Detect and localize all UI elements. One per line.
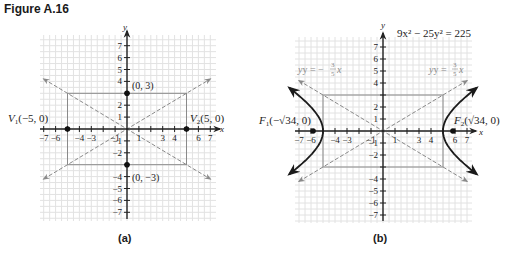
point-label-0-3: (0, 3)	[132, 80, 154, 92]
y-tick-label: 4	[118, 76, 123, 86]
y-tick-label: −4	[368, 174, 378, 184]
figure-canvas: −7−6−4−3−113467765421−1−2−4−5−6−7 −7−6−4…	[0, 0, 526, 256]
y-tick-label: 5	[374, 66, 379, 76]
x-tick-label: 7	[465, 135, 470, 145]
y-tick-label: −5	[368, 186, 378, 196]
x-tick-label: 3	[417, 135, 422, 145]
x-tick-label: −3	[87, 133, 97, 143]
y-tick-label: 1	[374, 114, 379, 124]
x-tick-label: −4	[330, 135, 340, 145]
svg-text:3: 3	[331, 61, 335, 69]
y-tick-label: 4	[374, 78, 379, 88]
data-point	[184, 126, 190, 132]
vertex-label-v2: V2(5, 0)	[190, 112, 224, 126]
y-tick-label: 7	[374, 42, 379, 52]
y-tick-label: −4	[112, 172, 122, 182]
y-tick-label: −6	[368, 198, 378, 208]
x-tick-label: −4	[75, 133, 85, 143]
svg-text:yy =: yy =	[428, 64, 447, 75]
data-point	[310, 128, 316, 134]
x-axis-label-a: x	[219, 124, 224, 134]
y-tick-label: −7	[368, 210, 378, 220]
y-axis-label-b: y	[380, 20, 385, 30]
y-tick-label: −2	[368, 150, 378, 160]
x-tick-label: 4	[172, 133, 177, 143]
asymptote-label-pos: yy = 3 5 x	[428, 61, 464, 78]
y-tick-label: 6	[374, 54, 379, 64]
y-tick-label: −1	[112, 136, 122, 146]
svg-text:x: x	[336, 64, 342, 75]
svg-text:x: x	[458, 64, 464, 75]
data-point	[65, 126, 71, 132]
y-tick-label: 6	[118, 53, 123, 63]
y-tick-label: −1	[368, 138, 378, 148]
panel-b-plot: −7−6−4−3−113467765421−1−2−4−5−6−7	[289, 33, 476, 223]
data-point	[124, 91, 130, 97]
point-label-0-neg3: (0, −3)	[132, 172, 159, 184]
focus-label-f2: F2(√34, 0)	[453, 114, 500, 128]
x-tick-label: 1	[137, 133, 142, 143]
x-tick-label: 1	[393, 135, 398, 145]
x-axis-label-b: x	[478, 127, 483, 137]
x-tick-label: −6	[306, 135, 316, 145]
x-tick-label: 6	[453, 135, 458, 145]
equation-label: 9x² − 25y² = 225	[397, 27, 472, 39]
y-tick-label: −7	[112, 207, 122, 217]
x-tick-label: −6	[51, 133, 61, 143]
x-tick-label: 3	[160, 133, 165, 143]
focus-label-f1: F1(−√34, 0)	[258, 114, 311, 128]
x-tick-label: 7	[208, 133, 213, 143]
x-tick-label: 4	[429, 135, 434, 145]
y-tick-label: 7	[118, 41, 123, 51]
caption-b: (b)	[373, 232, 387, 244]
y-tick-label: 2	[118, 100, 123, 110]
panel-a-plot: −7−6−4−3−113467765421−1−2−4−5−6−7	[39, 31, 220, 221]
x-tick-label: −3	[342, 135, 352, 145]
svg-text:3: 3	[453, 61, 457, 69]
svg-text:yy = −: yy = −	[297, 64, 324, 75]
y-tick-label: −2	[112, 148, 122, 158]
x-tick-label: −7	[294, 135, 304, 145]
y-tick-label: 2	[374, 102, 379, 112]
y-tick-label: 1	[118, 112, 123, 122]
vertex-label-v1: V1(−5, 0)	[8, 112, 49, 126]
y-tick-label: 5	[118, 65, 123, 75]
caption-a: (a)	[118, 232, 131, 244]
svg-text:5: 5	[331, 70, 335, 78]
x-tick-label: −7	[39, 133, 49, 143]
y-axis-label-a: y	[122, 22, 127, 32]
x-tick-label: 6	[196, 133, 201, 143]
data-point	[450, 128, 456, 134]
y-tick-label: −6	[112, 195, 122, 205]
y-tick-label: −5	[112, 184, 122, 194]
svg-text:5: 5	[453, 70, 457, 78]
data-point	[124, 162, 130, 168]
